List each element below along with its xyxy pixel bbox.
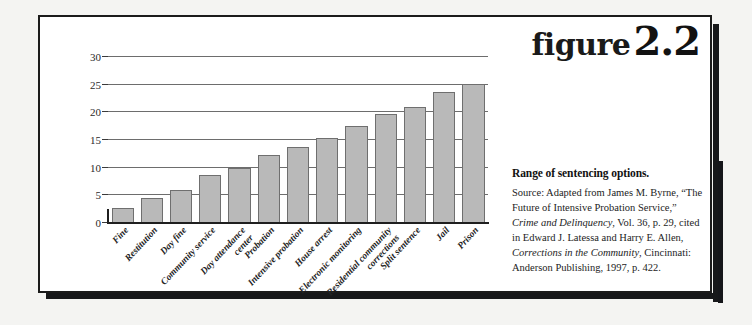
bar bbox=[316, 138, 338, 223]
bar bbox=[112, 208, 134, 223]
x-axis-tick-label: Fine bbox=[110, 225, 130, 246]
caption-source-plain: Source: Adapted from James M. Byrne, “Th… bbox=[512, 187, 702, 213]
bar-slot bbox=[166, 57, 195, 223]
figure-box: figure2.2 051015202530 FineRestitutionDa… bbox=[38, 15, 712, 293]
y-axis-tick-label: 25 bbox=[90, 79, 101, 91]
plot-area: 051015202530 bbox=[108, 57, 488, 223]
bar bbox=[462, 84, 484, 223]
x-axis-tick-labels: FineRestitutionDay fineCommunity service… bbox=[108, 225, 488, 285]
bar-slot bbox=[225, 57, 254, 223]
y-axis-tick-label: 15 bbox=[90, 134, 101, 146]
bar bbox=[258, 155, 280, 223]
y-axis-tick-label: 10 bbox=[90, 162, 101, 174]
bar bbox=[404, 107, 426, 223]
figure-heading: figure2.2 bbox=[531, 21, 700, 61]
bar bbox=[199, 175, 221, 223]
caption-source-italic: Crime and Delinquency bbox=[512, 217, 612, 228]
figure-shadow-bottom bbox=[46, 293, 719, 299]
bar-slot bbox=[254, 57, 283, 223]
y-axis-tick-label: 5 bbox=[96, 189, 102, 201]
x-axis-tick-label: Jail bbox=[434, 225, 452, 243]
x-axis-tick-label-line: Prison bbox=[456, 225, 481, 251]
bar-slot bbox=[430, 57, 459, 223]
bar-slot bbox=[313, 57, 342, 223]
figure-number-label: 2.2 bbox=[633, 17, 700, 64]
bar bbox=[433, 92, 455, 223]
y-axis-line bbox=[107, 209, 109, 223]
y-axis-tick-label: 0 bbox=[96, 217, 102, 229]
bar bbox=[287, 147, 309, 223]
caption-block: Range of sentencing options. Source: Ada… bbox=[512, 167, 704, 275]
x-axis-line bbox=[107, 222, 489, 224]
bar-chart: 051015202530 FineRestitutionDay fineComm… bbox=[60, 37, 500, 272]
caption-divider-rule bbox=[718, 161, 723, 303]
y-axis-tick-label: 20 bbox=[90, 106, 101, 118]
bar-slot bbox=[459, 57, 488, 223]
bar bbox=[170, 190, 192, 223]
caption-title: Range of sentencing options. bbox=[512, 167, 704, 179]
y-axis-tick-label: 30 bbox=[90, 51, 101, 63]
bar-slot bbox=[342, 57, 371, 223]
x-axis-tick-label-line: Fine bbox=[110, 225, 130, 245]
bar-slot bbox=[108, 57, 137, 223]
bar bbox=[375, 114, 397, 223]
x-axis-tick-label: Prison bbox=[456, 225, 481, 251]
bar-slot bbox=[137, 57, 166, 223]
caption-source-italic: Corrections in the Community bbox=[512, 247, 639, 258]
bar-slot bbox=[400, 57, 429, 223]
x-axis-tick-label-line: Jail bbox=[434, 225, 451, 243]
bar-slot bbox=[283, 57, 312, 223]
figure-word-label: figure bbox=[531, 27, 630, 62]
bar-slot bbox=[371, 57, 400, 223]
bar bbox=[345, 126, 367, 223]
bar bbox=[141, 198, 163, 223]
bar-series bbox=[108, 57, 488, 223]
bar bbox=[228, 168, 250, 223]
bar-slot bbox=[196, 57, 225, 223]
caption-source-text: Source: Adapted from James M. Byrne, “Th… bbox=[512, 186, 704, 275]
